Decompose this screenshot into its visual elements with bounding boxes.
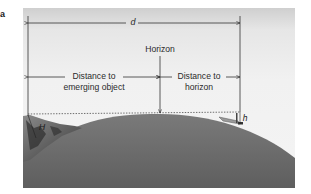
horizon-label: Horizon <box>138 44 182 55</box>
distance-to-horizon-line2: horizon <box>170 82 228 93</box>
distance-to-horizon-label: Distance to horizon <box>170 71 228 92</box>
object-height-label: h <box>241 113 249 124</box>
total-distance-label: d <box>128 17 138 28</box>
observer-height-label: H <box>38 122 46 133</box>
diagram-overlay <box>0 0 311 194</box>
distance-to-emerging-object-line2: emerging object <box>58 82 130 93</box>
distance-to-horizon-line1: Distance to <box>170 71 228 82</box>
distance-to-emerging-object-line1: Distance to <box>58 71 130 82</box>
distance-to-emerging-object-label: Distance to emerging object <box>58 71 130 92</box>
line-of-sight <box>28 112 240 114</box>
